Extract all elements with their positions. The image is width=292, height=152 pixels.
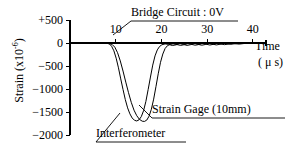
annotation-interferometer: Interferometer bbox=[96, 127, 165, 140]
annotation-strain-gage: Strain Gage (10mm) bbox=[152, 103, 251, 116]
y-tick-label-3: −1000 bbox=[0, 83, 63, 95]
y-tick-label-4: −1500 bbox=[0, 106, 63, 118]
annotation-bridge-circuit: Bridge Circuit : 0V bbox=[131, 6, 224, 19]
leader-gage-diagonal bbox=[139, 105, 152, 118]
x-tick-label-1: 20 bbox=[145, 23, 177, 35]
y-tick-label-2: −500 bbox=[0, 60, 63, 72]
x-tick-label-2: 30 bbox=[191, 23, 223, 35]
x-axis-units: ( μ s) bbox=[258, 56, 283, 69]
y-tick-label-5: −2000 bbox=[0, 129, 63, 141]
x-tick-label-3: 40 bbox=[237, 23, 269, 35]
x-axis-title: Time bbox=[255, 40, 280, 53]
y-tick-label-1: 0 bbox=[0, 37, 63, 49]
y-tick-label-0: +500 bbox=[0, 14, 63, 26]
x-tick-label-0: 10 bbox=[100, 23, 132, 35]
strain-vs-time-chart: Strain (x10-6) Time ( μ s) Bridge Circui… bbox=[0, 0, 292, 152]
